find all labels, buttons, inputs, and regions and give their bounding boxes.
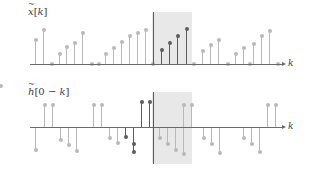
- stem-sample: [60, 128, 61, 140]
- stem-sample-emphasized: [186, 29, 187, 64]
- stem-sample: [74, 43, 75, 64]
- stem-sample-emphasized: [133, 128, 134, 152]
- stem-sample: [243, 128, 244, 138]
- stem-sample: [137, 33, 138, 64]
- stem-sample: [82, 33, 83, 64]
- stem-sample: [211, 128, 212, 144]
- stem-sample: [68, 128, 69, 145]
- stem-sample-emphasized: [161, 50, 162, 64]
- stem-sample: [113, 48, 114, 64]
- stem-plot-figure: ~x[k] k: [0, 0, 311, 172]
- stem-sample: [253, 44, 254, 64]
- x-axis-top: [30, 64, 282, 65]
- stem-sample-emphasized: [141, 102, 142, 127]
- stem-sample: [43, 30, 44, 64]
- stem-sample: [159, 128, 160, 138]
- stem-sample: [52, 105, 53, 127]
- signal-label-h-tilde: ~h[0 − k]: [28, 86, 69, 97]
- stem-sample: [183, 128, 184, 154]
- x-axis-label-top: k: [288, 58, 293, 68]
- stem-sample: [145, 30, 146, 64]
- stem-sample-emphasized: [169, 43, 170, 64]
- stem-sample: [219, 128, 220, 153]
- stem-sample: [101, 105, 102, 127]
- stem-sample: [218, 40, 219, 64]
- stem-sample: [66, 47, 67, 64]
- stem-sample: [59, 54, 60, 64]
- stem-sample: [175, 128, 176, 150]
- stem-sample-emphasized: [177, 36, 178, 64]
- stem-sample-emphasized: [149, 102, 150, 127]
- stem-sample: [93, 105, 94, 127]
- stem-sample: [259, 128, 260, 152]
- stem-sample: [203, 128, 204, 138]
- stem-sample: [109, 128, 110, 138]
- stem-sample: [35, 40, 36, 64]
- panel-h-tilde: ~h[0 − k] k: [0, 86, 311, 172]
- stem-sample: [117, 128, 118, 143]
- stem-sample: [210, 45, 211, 64]
- x-axis-arrow-bottom: [282, 125, 286, 129]
- stem-sample: [35, 128, 36, 150]
- stem-sample-emphasized: [125, 128, 126, 137]
- stem-sample: [76, 128, 77, 151]
- stem-sample: [121, 42, 122, 64]
- stem-sample: [183, 105, 184, 127]
- panel-x-tilde: ~x[k] k: [0, 0, 311, 86]
- zero-line-top: [153, 12, 154, 65]
- stem-sample: [167, 128, 168, 144]
- stem-sample: [44, 105, 45, 127]
- stem-sample: [105, 54, 106, 64]
- stem-sample: [243, 48, 244, 64]
- x-axis-bottom: [30, 127, 282, 128]
- stem-sample: [129, 36, 130, 64]
- stem-sample: [269, 31, 270, 64]
- stem-sample: [251, 128, 252, 144]
- signal-label-x-tilde: ~x[k]: [28, 6, 48, 17]
- stem-sample: [267, 105, 268, 127]
- stem-sample: [191, 105, 192, 127]
- zero-line-bottom: [153, 92, 154, 164]
- stem-sample: [275, 105, 276, 127]
- stem-sample: [202, 51, 203, 64]
- x-axis-label-bottom: k: [288, 121, 293, 131]
- stem-sample: [235, 54, 236, 64]
- stem-sample: [261, 36, 262, 64]
- x-axis-arrow-top: [282, 62, 286, 66]
